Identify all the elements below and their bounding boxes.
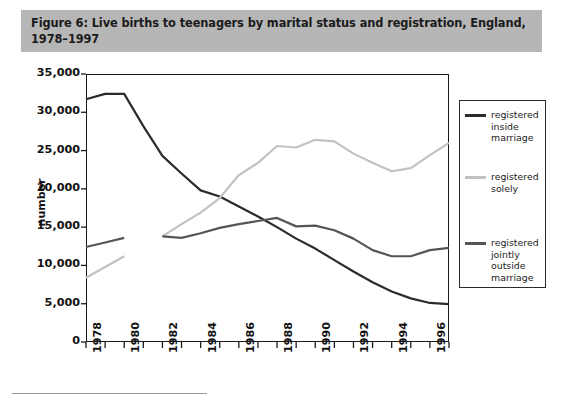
legend-item[interactable]: registered solely	[465, 171, 543, 194]
figure-container: Figure 6: Live births to teenagers by ma…	[0, 0, 565, 401]
x-tick-label: 1996	[435, 322, 448, 353]
legend-label: registered inside marriage	[491, 109, 539, 144]
x-tick-label: 1994	[397, 322, 410, 353]
x-tick-label: 1984	[206, 322, 219, 353]
x-tick-label: 1986	[244, 322, 257, 353]
footer-divider	[12, 393, 207, 394]
chart-legend: registered inside marriageregistered sol…	[459, 100, 546, 288]
x-tick-label: 1992	[358, 322, 371, 353]
x-tick-label: 1978	[91, 322, 104, 353]
legend-item[interactable]: registered jointly outside marriage	[465, 237, 543, 283]
x-tick-label: 1988	[282, 322, 295, 353]
legend-swatch-icon	[465, 114, 486, 117]
x-tick-label: 1990	[320, 322, 333, 353]
legend-item[interactable]: registered inside marriage	[465, 109, 543, 144]
x-tick-label: 1982	[167, 322, 180, 353]
x-tick-label: 1980	[129, 322, 142, 353]
legend-label: registered solely	[491, 171, 539, 194]
legend-swatch-icon	[465, 176, 486, 179]
legend-swatch-icon	[465, 242, 486, 245]
legend-label: registered jointly outside marriage	[491, 237, 539, 283]
